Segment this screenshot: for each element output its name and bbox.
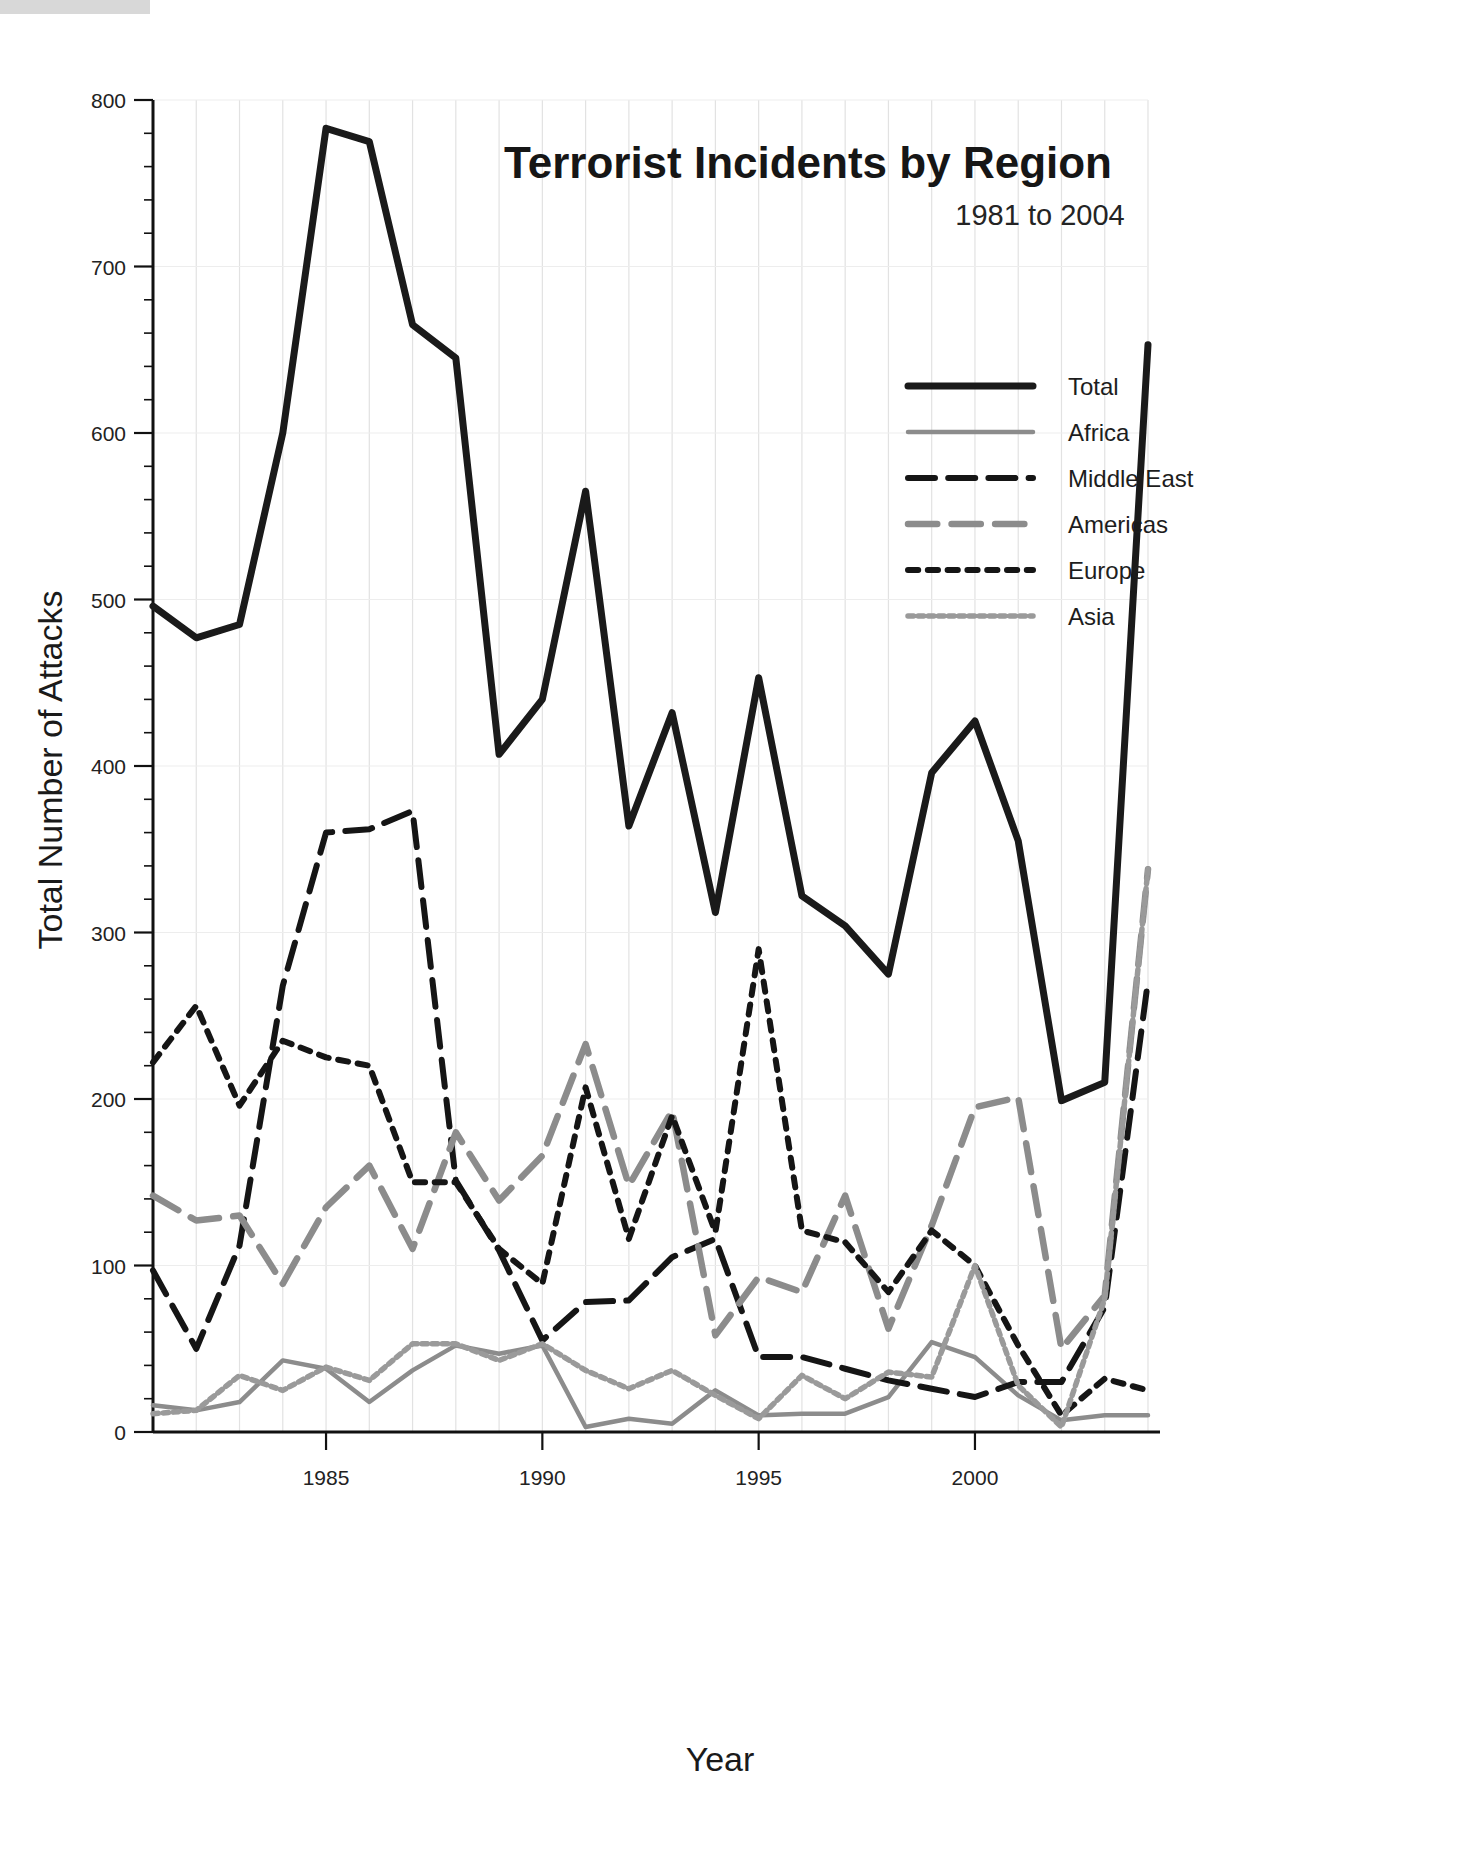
y-tick-label: 400 [91, 755, 126, 778]
legend-label-total: Total [1068, 373, 1119, 400]
series-layer [153, 128, 1148, 1427]
chart-title: Terrorist Incidents by Region [504, 138, 1112, 187]
y-tick-label: 200 [91, 1088, 126, 1111]
y-tick-label: 600 [91, 422, 126, 445]
chart-subtitle: 1981 to 2004 [955, 199, 1124, 231]
y-tick-label: 500 [91, 589, 126, 612]
legend-label-asia: Asia [1068, 603, 1115, 630]
legend-label-europe: Europe [1068, 557, 1145, 584]
x-tick-label: 1990 [519, 1466, 566, 1489]
legend-label-africa: Africa [1068, 419, 1130, 446]
legend: TotalAfricaMiddle EastAmericasEuropeAsia [908, 373, 1194, 630]
x-tick-label: 1985 [303, 1466, 350, 1489]
line-chart: 0100200300400500600700800198519901995200… [0, 0, 1463, 1874]
chart-page: 0100200300400500600700800198519901995200… [0, 0, 1463, 1874]
x-tick-label: 1995 [735, 1466, 782, 1489]
y-tick-label: 300 [91, 922, 126, 945]
legend-label-middle-east: Middle East [1068, 465, 1194, 492]
series-line-africa [153, 1342, 1148, 1427]
series-line-europe [153, 949, 1148, 1415]
y-tick-label: 800 [91, 89, 126, 112]
chart-container: 0100200300400500600700800198519901995200… [0, 0, 1463, 1874]
series-line-americas [153, 869, 1148, 1349]
y-tick-label: 700 [91, 256, 126, 279]
series-line-asia [153, 869, 1148, 1427]
x-tick-label: 2000 [952, 1466, 999, 1489]
y-tick-label: 0 [114, 1421, 126, 1444]
y-tick-label: 100 [91, 1255, 126, 1278]
y-axis-title: Total Number of Attacks [31, 590, 69, 949]
x-axis-title: Year [686, 1740, 755, 1778]
legend-label-americas: Americas [1068, 511, 1168, 538]
